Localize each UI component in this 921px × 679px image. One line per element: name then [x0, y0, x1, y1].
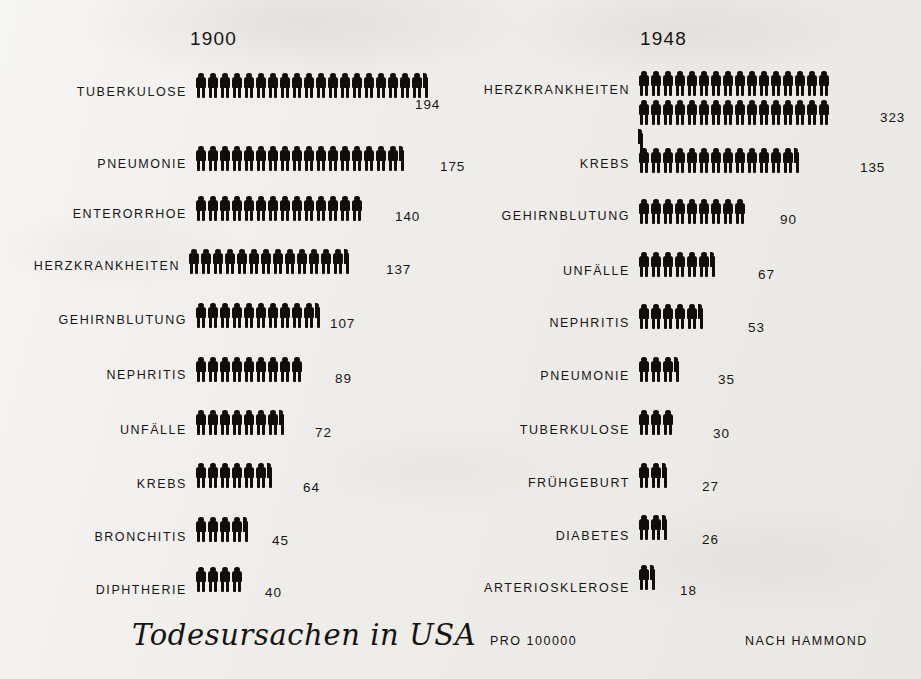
person-icon — [734, 147, 746, 173]
person-icon — [698, 198, 710, 224]
pictogram-line — [638, 303, 703, 329]
person-icon — [231, 195, 243, 221]
person-icon — [231, 145, 243, 171]
pictogram-group — [195, 516, 248, 542]
person-half-icon — [650, 564, 655, 590]
chart-row: HERZKRANKHEITEN137 — [0, 248, 470, 294]
person-icon — [650, 70, 662, 96]
person-icon — [219, 356, 231, 382]
person-icon — [650, 409, 662, 435]
chart-row: UNFÄLLE72 — [0, 409, 470, 455]
pictogram-line — [188, 248, 349, 274]
person-icon — [686, 99, 698, 125]
person-icon — [662, 303, 674, 329]
chart-row: DIPHTHERIE40 — [0, 566, 470, 612]
person-icon — [638, 564, 650, 590]
person-icon — [255, 195, 267, 221]
person-icon — [710, 70, 722, 96]
person-icon — [219, 462, 231, 488]
person-icon — [195, 462, 207, 488]
column-header-1948: 1948 — [640, 28, 687, 50]
person-icon — [255, 409, 267, 435]
row-label: HERZKRANKHEITEN — [34, 260, 180, 273]
person-icon — [698, 70, 710, 96]
pictogram-group — [638, 409, 674, 435]
person-icon — [746, 147, 758, 173]
person-icon — [212, 248, 224, 274]
column-header-1900: 1900 — [190, 28, 237, 50]
person-icon — [674, 198, 686, 224]
person-icon — [200, 248, 212, 274]
person-icon — [770, 147, 782, 173]
person-icon — [698, 147, 710, 173]
person-icon — [231, 356, 243, 382]
person-icon — [770, 99, 782, 125]
pictogram-group — [638, 70, 830, 154]
person-icon — [734, 198, 746, 224]
person-icon — [231, 462, 243, 488]
person-icon — [267, 302, 279, 328]
row-label: HERZKRANKHEITEN — [484, 84, 630, 97]
pictogram-line — [638, 147, 799, 173]
person-icon — [219, 145, 231, 171]
pictogram-line — [195, 409, 284, 435]
person-icon — [224, 248, 236, 274]
person-icon — [363, 145, 375, 171]
row-value: 135 — [860, 160, 885, 175]
person-icon — [734, 99, 746, 125]
person-icon — [375, 145, 387, 171]
person-icon — [207, 409, 219, 435]
person-icon — [207, 516, 219, 542]
person-icon — [662, 99, 674, 125]
row-value: 30 — [713, 426, 730, 441]
person-icon — [411, 72, 423, 98]
row-label: GEHIRNBLUTUNG — [59, 314, 188, 327]
person-icon — [662, 356, 674, 382]
person-icon — [320, 248, 332, 274]
person-icon — [279, 356, 291, 382]
person-icon — [243, 195, 255, 221]
person-icon — [267, 145, 279, 171]
person-icon — [806, 99, 818, 125]
person-icon — [267, 356, 279, 382]
pictogram-group — [195, 356, 303, 382]
row-label: UNFÄLLE — [120, 424, 187, 437]
person-icon — [207, 566, 219, 592]
pictogram-line — [195, 516, 248, 542]
row-value: 45 — [272, 533, 289, 548]
pictogram-group — [638, 462, 667, 488]
row-value: 194 — [415, 97, 440, 112]
row-value: 107 — [330, 316, 355, 331]
row-label: PNEUMONIE — [97, 158, 187, 171]
person-icon — [758, 147, 770, 173]
person-icon — [207, 145, 219, 171]
person-icon — [399, 72, 411, 98]
person-icon — [243, 409, 255, 435]
person-half-icon — [662, 462, 667, 488]
person-icon — [662, 409, 674, 435]
chart-row: TUBERKULOSE30 — [470, 409, 921, 455]
person-icon — [231, 566, 243, 592]
person-icon — [231, 72, 243, 98]
person-half-icon — [399, 145, 404, 171]
person-icon — [363, 72, 375, 98]
row-value: 53 — [748, 320, 765, 335]
person-icon — [195, 145, 207, 171]
person-icon — [272, 248, 284, 274]
person-half-icon — [662, 514, 667, 540]
person-icon — [255, 356, 267, 382]
pictogram-line — [195, 195, 363, 221]
person-icon — [650, 251, 662, 277]
person-icon — [315, 145, 327, 171]
source-note: NACH HAMMOND — [745, 634, 868, 648]
chart-row: GEHIRNBLUTUNG90 — [470, 198, 921, 244]
person-icon — [698, 251, 710, 277]
chart-row: ARTERIOSKLEROSE18 — [470, 564, 921, 610]
row-label: DIABETES — [556, 530, 630, 543]
row-label: BRONCHITIS — [94, 531, 187, 544]
chart-row: NEPHRITIS89 — [0, 356, 470, 402]
row-label: DIPHTHERIE — [96, 584, 187, 597]
person-icon — [339, 195, 351, 221]
person-icon — [248, 248, 260, 274]
chart-row: DIABETES26 — [470, 514, 921, 560]
